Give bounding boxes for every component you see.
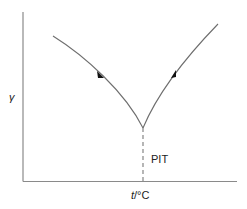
arrow-left-icon bbox=[97, 71, 104, 78]
diagram-canvas: γ PIT t/°C bbox=[0, 0, 247, 209]
x-axis-label-unit: /°C bbox=[134, 189, 149, 201]
x-axis-label: t/°C bbox=[131, 189, 150, 201]
right-curve bbox=[143, 24, 218, 128]
left-curve bbox=[53, 36, 143, 128]
y-axis-label: γ bbox=[9, 91, 16, 103]
arrow-right-icon bbox=[171, 70, 176, 78]
pit-label: PIT bbox=[151, 153, 168, 165]
